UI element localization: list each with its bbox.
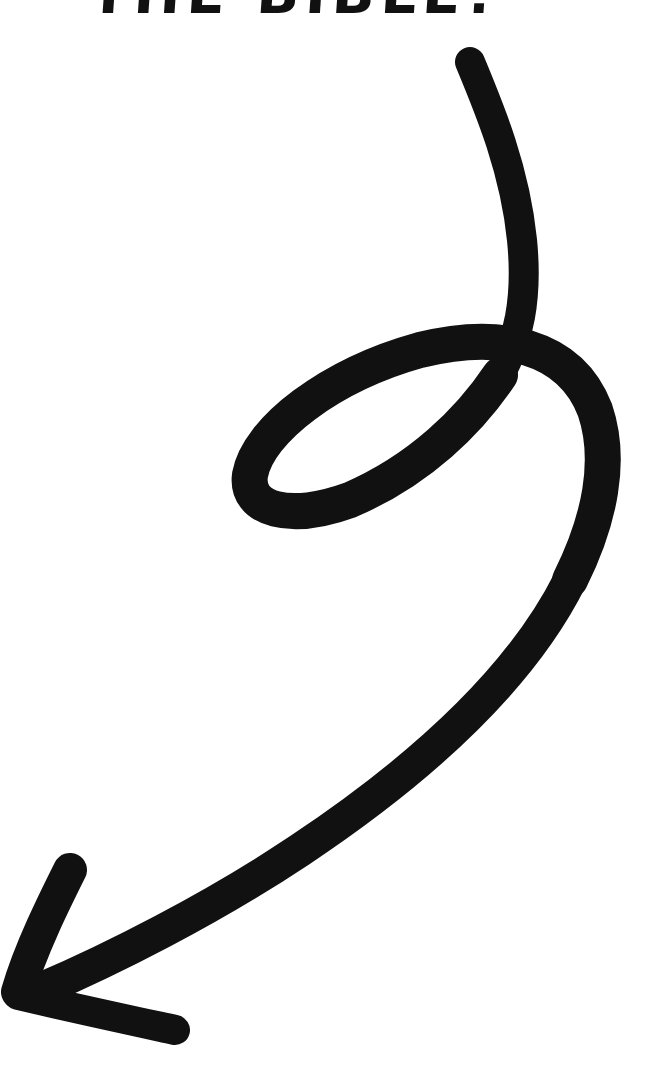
swirl-arrow-icon [0, 0, 646, 1079]
